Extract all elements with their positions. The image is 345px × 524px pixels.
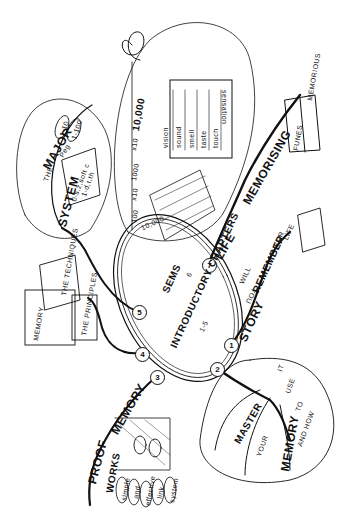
sense-sound: sound xyxy=(175,126,182,148)
branch-number-2: 2 xyxy=(210,362,225,377)
branch-number-4: 4 xyxy=(135,347,150,362)
sensation-header: sensation xyxy=(221,90,228,124)
branch-number-3: 3 xyxy=(150,370,165,385)
sense-touch: touch xyxy=(212,128,219,148)
sense-smell: smell xyxy=(188,129,195,148)
mind-map: 1 2 3 4 5 7 INTRODUCTORY CHAPTERS 1-5 SE… xyxy=(0,0,345,524)
branch-number-1: 1 xyxy=(224,338,239,353)
sense-taste: taste xyxy=(200,130,207,148)
sense-vision: vision xyxy=(162,127,169,148)
branch-number-5: 5 xyxy=(132,305,147,320)
